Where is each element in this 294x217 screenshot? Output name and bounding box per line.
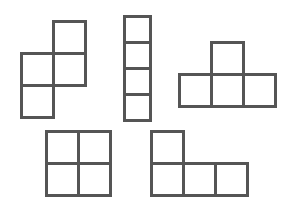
square-cell	[123, 15, 152, 44]
square-cell	[123, 41, 152, 70]
square-cell	[210, 73, 245, 108]
square-cell	[52, 52, 87, 87]
square-cell	[123, 67, 152, 96]
square-cell	[77, 130, 112, 165]
square-cell	[123, 93, 152, 122]
square-cell	[52, 20, 87, 55]
square-cell	[45, 162, 80, 197]
square-cell	[150, 130, 185, 165]
square-cell	[20, 84, 55, 119]
square-cell	[77, 162, 112, 197]
square-cell	[45, 130, 80, 165]
square-cell	[242, 73, 277, 108]
square-cell	[20, 52, 55, 87]
square-cell	[182, 162, 217, 197]
square-cell	[150, 162, 185, 197]
square-cell	[178, 73, 213, 108]
square-cell	[210, 41, 245, 76]
square-cell	[214, 162, 249, 197]
